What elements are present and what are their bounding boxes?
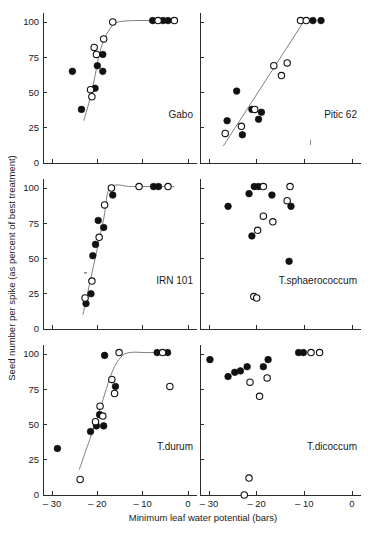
data-point-open-circle (100, 413, 106, 419)
axis-spine (200, 179, 361, 329)
data-point-open-circle (252, 106, 258, 112)
panel-label: IRN 101 (156, 275, 193, 286)
y-tick-label: 50 (28, 87, 39, 98)
data-point-open-circle (316, 349, 322, 355)
panel-t-dicoccum: – 30– 20– 100T.dicoccum (200, 345, 361, 509)
data-point-filled-circle (286, 258, 293, 265)
data-point-open-circle (264, 375, 270, 381)
data-point-open-circle (136, 183, 142, 189)
data-point-open-circle (116, 349, 122, 355)
fit-curve (223, 21, 304, 146)
data-point-filled-circle (269, 192, 276, 199)
data-point-filled-circle (300, 349, 307, 356)
x-tick-label: – 30 (200, 498, 219, 509)
data-point-open-circle (260, 213, 266, 219)
y-tick-label: 75 (28, 218, 39, 229)
data-point-open-circle (238, 123, 244, 129)
data-point-filled-circle (310, 17, 317, 24)
data-point-filled-circle (260, 363, 267, 370)
data-point-open-circle (87, 86, 93, 92)
x-tick-label: – 30 (43, 498, 62, 509)
y-tick-label: 100 (23, 16, 39, 27)
data-point-open-circle (287, 183, 293, 189)
data-point-open-circle (165, 183, 171, 189)
data-point-open-circle (93, 51, 99, 57)
axis-spine (43, 345, 197, 495)
data-point-open-circle (260, 183, 266, 189)
data-point-filled-circle (225, 203, 232, 210)
data-point-open-circle (256, 393, 262, 399)
x-axis-title: Minimum leaf water potential (bars) (129, 512, 277, 523)
y-tick-label: 75 (28, 52, 39, 63)
y-tick-label: 0 (34, 157, 39, 168)
y-tick-label: 100 (23, 182, 39, 193)
data-point-open-circle (303, 17, 309, 23)
axis-titles-layer: Seed number per spike (as percent of bes… (6, 155, 277, 523)
y-tick-label: 75 (28, 384, 39, 395)
panel-irn-101: 0255075100IRN 101 (23, 179, 197, 334)
data-point-open-circle (89, 278, 95, 284)
axis-spine (43, 179, 197, 329)
data-point-filled-circle (95, 217, 102, 224)
data-point-filled-circle (255, 116, 262, 123)
data-point-open-circle (109, 376, 115, 382)
data-point-open-circle (77, 476, 83, 482)
data-point-filled-circle (90, 252, 97, 259)
data-point-open-circle (222, 130, 228, 136)
data-point-filled-circle (78, 106, 85, 113)
data-point-filled-circle (246, 190, 253, 197)
x-tick-label: – 10 (133, 498, 152, 509)
panel-gabo: 0255075100Gabo (23, 13, 197, 168)
data-point-filled-circle (99, 51, 106, 58)
multi-panel-scatter-figure: 0255075100GaboPitic 620255075100IRN 101T… (0, 0, 371, 537)
data-point-open-circle (155, 17, 161, 23)
x-tick-label: 0 (185, 498, 190, 509)
panel-label: T.dicoccum (307, 441, 357, 452)
data-point-filled-circle (100, 423, 107, 430)
panel-t-durum: 0255075100– 30– 20– 100T.durum (23, 345, 197, 509)
figure-root: 0255075100GaboPitic 620255075100IRN 101T… (0, 0, 371, 537)
fit-curve (79, 352, 170, 469)
y-tick-label: 25 (28, 454, 39, 465)
print-specks (84, 140, 311, 274)
data-point-open-circle (241, 492, 247, 498)
data-point-filled-circle (225, 373, 232, 380)
data-point-filled-circle (94, 62, 101, 69)
data-point-filled-circle (54, 445, 61, 452)
panel-label: T.sphaerococcum (279, 275, 357, 286)
data-point-filled-circle (88, 290, 95, 297)
y-tick-label: 25 (28, 288, 39, 299)
data-point-filled-circle (249, 233, 256, 240)
data-point-filled-circle (100, 224, 107, 231)
print-speck (84, 272, 87, 274)
data-point-open-circle (111, 390, 117, 396)
data-point-open-circle (110, 19, 116, 25)
y-axis-title: Seed number per spike (as percent of bes… (6, 155, 17, 380)
x-tick-label: – 20 (247, 498, 266, 509)
data-point-open-circle (278, 72, 284, 78)
axis-spine (43, 13, 197, 163)
data-point-filled-circle (224, 117, 231, 124)
data-point-filled-circle (101, 352, 108, 359)
y-tick-label: 50 (28, 253, 39, 264)
data-point-filled-circle (92, 241, 99, 248)
panel-t-sphaerococcum: T.sphaerococcum (200, 179, 361, 329)
data-point-filled-circle (69, 68, 76, 75)
data-point-filled-circle (155, 183, 162, 190)
data-point-open-circle (97, 403, 103, 409)
data-point-open-circle (167, 383, 173, 389)
data-point-filled-circle (233, 88, 240, 95)
data-point-open-circle (91, 44, 97, 50)
data-point-filled-circle (165, 17, 172, 24)
data-point-open-circle (246, 475, 252, 481)
data-point-open-circle (82, 295, 88, 301)
data-point-open-circle (159, 349, 165, 355)
data-point-open-circle (171, 17, 177, 23)
data-point-open-circle (101, 202, 107, 208)
data-point-open-circle (284, 197, 290, 203)
data-point-filled-circle (112, 383, 119, 390)
data-point-filled-circle (87, 428, 94, 435)
y-tick-label: 0 (34, 323, 39, 334)
panels-layer: 0255075100GaboPitic 620255075100IRN 101T… (23, 13, 361, 509)
panel-label: T.durum (157, 441, 193, 452)
